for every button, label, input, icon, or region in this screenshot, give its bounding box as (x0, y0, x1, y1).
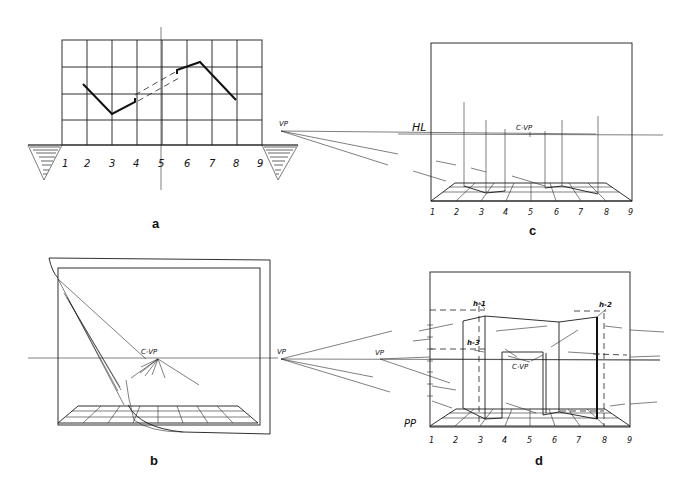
svg-text:VP: VP (375, 349, 385, 357)
svg-text:9: 9 (628, 208, 633, 217)
grid-numbers-c: 1 2 3 4 5 6 7 8 9 (430, 208, 633, 217)
pp-label: PP (404, 418, 417, 429)
svg-text:9: 9 (627, 436, 632, 445)
panel-label-a: a (152, 216, 160, 231)
svg-text:5: 5 (528, 208, 533, 217)
svg-text:8: 8 (602, 436, 607, 445)
h2-label: h-2 (599, 301, 612, 309)
panel-b: C-VP (28, 258, 278, 468)
svg-text:3: 3 (479, 208, 484, 217)
panel-label-c: c (529, 223, 536, 238)
svg-text:7: 7 (578, 208, 584, 217)
svg-text:4: 4 (503, 208, 508, 217)
h1-label: h-1 (473, 300, 486, 308)
svg-text:3: 3 (478, 436, 483, 445)
grid-numbers-d: 1 2 3 4 5 6 7 8 9 (429, 436, 632, 445)
svg-text:6: 6 (552, 436, 557, 445)
cvp-label-d: C-VP (512, 363, 529, 371)
svg-text:1: 1 (430, 208, 435, 217)
svg-text:4: 4 (133, 158, 139, 169)
svg-text:1: 1 (62, 158, 68, 169)
svg-text:2: 2 (454, 208, 459, 217)
svg-text:9: 9 (257, 158, 263, 169)
svg-text:8: 8 (233, 158, 239, 169)
vanishing-point-top: VP (279, 120, 596, 165)
cvp-label-b: C-VP (141, 348, 158, 356)
svg-text:8: 8 (604, 208, 609, 217)
svg-text:6: 6 (184, 158, 190, 169)
ground-hatch-left (28, 145, 62, 180)
svg-text:7: 7 (576, 436, 582, 445)
panel-d: h-1 h-2 h-3 C-VP PP 1 2 3 4 5 6 7 8 9 d (404, 272, 664, 468)
svg-text:7: 7 (209, 158, 216, 169)
svg-text:5: 5 (158, 158, 164, 169)
cvp-label-c: C-VP (516, 124, 533, 132)
panel-label-b: b (150, 453, 158, 468)
svg-text:2: 2 (453, 436, 458, 445)
panel-c: HL C-VP (398, 43, 663, 238)
svg-text:3: 3 (109, 158, 115, 169)
grid-numbers-a: 1 2 3 4 5 6 7 8 9 (62, 158, 263, 169)
svg-text:5: 5 (527, 436, 532, 445)
perspective-diagram: 1 2 3 4 5 6 7 8 9 a VP HL C-VP (0, 0, 687, 479)
h3-label: h-3 (467, 339, 480, 347)
svg-text:2: 2 (84, 158, 90, 169)
svg-text:VP: VP (279, 120, 289, 128)
svg-text:1: 1 (429, 436, 434, 445)
ground-hatch-right (262, 145, 298, 180)
panel-label-d: d (535, 453, 543, 468)
svg-text:VP: VP (277, 348, 287, 356)
svg-text:4: 4 (502, 436, 507, 445)
hl-label: HL (412, 121, 426, 134)
svg-text:6: 6 (554, 208, 559, 217)
panel-a: 1 2 3 4 5 6 7 8 9 a (28, 27, 298, 231)
